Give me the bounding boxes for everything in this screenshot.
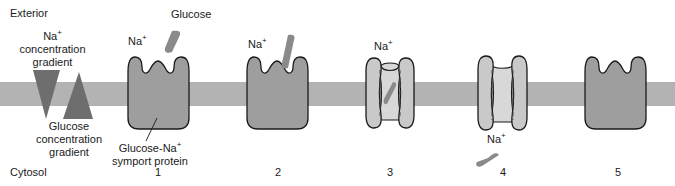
na-gradient-label: Na+ concentration gradient [0, 30, 105, 69]
na-gradient-triangle [33, 70, 60, 119]
step-number-1: 1 [148, 166, 168, 178]
protein-callout-line1-text: Glucose-Na [119, 142, 177, 154]
na-gradient-na-text: Na [43, 30, 57, 42]
na-label-step1-text: Na [128, 35, 142, 47]
protein-callout-label: Glucose-Na+ symport protein [95, 142, 205, 168]
na-gradient-charge: + [57, 28, 62, 37]
symport-protein-open-exterior [128, 57, 189, 129]
protein-left-lobe-step3 [366, 58, 381, 128]
step-number-4: 4 [493, 166, 513, 178]
glucose-molecule-step4 [476, 153, 499, 166]
protein-callout-charge: + [177, 140, 182, 149]
na-label-step4-text: Na [487, 133, 501, 145]
na-label-step3-text: Na [374, 40, 388, 52]
na-label-step1-charge: + [142, 33, 147, 42]
exterior-label: Exterior [10, 7, 48, 20]
na-gradient-label-line1: Na+ [0, 30, 105, 43]
figure-canvas: Exterior Cytosol Na+ concentration gradi… [0, 0, 675, 186]
na-label-step4-charge: + [501, 131, 506, 140]
na-label-step1: Na+ [128, 35, 147, 48]
na-label-step4: Na+ [487, 133, 506, 146]
step-3-protein [366, 58, 414, 128]
na-label-step3: Na+ [374, 40, 393, 53]
step-4-protein [476, 56, 527, 167]
protein-right-lobe-step4 [512, 56, 527, 130]
na-gradient-label-line2: concentration [0, 43, 105, 56]
na-gradient-label-line3: gradient [0, 56, 105, 69]
step-number-3: 3 [380, 166, 400, 178]
step-5-protein [585, 57, 646, 129]
protein-left-lobe-step4 [478, 56, 493, 130]
cytosol-label: Cytosol [10, 166, 47, 179]
na-label-step2-text: Na [248, 38, 262, 50]
na-label-step2: Na+ [248, 38, 267, 51]
symport-protein-reset [585, 57, 646, 129]
glucose-gradient-triangle [63, 72, 93, 119]
na-label-step2-charge: + [262, 36, 267, 45]
symport-protein-binding [247, 57, 308, 129]
na-label-step3-charge: + [388, 38, 393, 47]
step-1-protein [128, 57, 189, 141]
glucose-molecule-step1 [165, 31, 180, 53]
protein-top-notch-step3 [381, 63, 399, 71]
step-number-5: 5 [608, 166, 628, 178]
protein-callout-line1: Glucose-Na+ [95, 142, 205, 155]
glucose-molecule-label: Glucose [171, 8, 211, 21]
step-number-2: 2 [268, 166, 288, 178]
glucose-gradient-label-line1: Glucose [14, 120, 124, 133]
protein-right-lobe-step3 [399, 58, 414, 128]
